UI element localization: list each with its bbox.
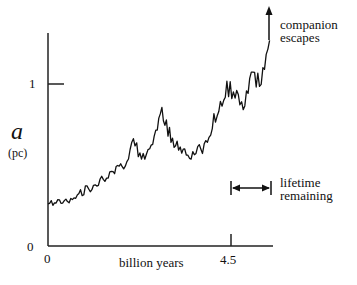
arrow-right-icon xyxy=(262,185,270,192)
data-series-line xyxy=(48,40,270,205)
x-tick-label-4-5: 4.5 xyxy=(220,253,236,267)
x-axis-title: billion years xyxy=(119,256,184,270)
y-axis-unit: (pc) xyxy=(8,146,27,161)
arrow-left-icon xyxy=(232,185,240,192)
arrow-up-icon xyxy=(266,6,273,15)
x-tick-label-0: 0 xyxy=(44,252,51,266)
annotation-escape-line2: escapes xyxy=(280,31,320,45)
y-axis-symbol: a xyxy=(11,118,23,145)
lifetime-span-arrow xyxy=(231,181,271,195)
y-tick-label-0: 0 xyxy=(27,240,34,254)
annotation-lifetime-line2: remaining xyxy=(280,189,333,203)
y-tick-label-1: 1 xyxy=(29,77,36,91)
